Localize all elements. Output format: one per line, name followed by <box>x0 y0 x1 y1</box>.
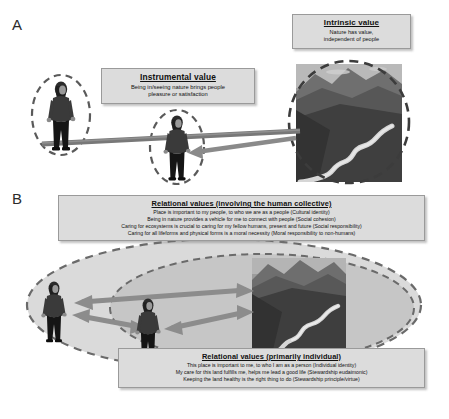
relational-collective-line-4: Caring for all lifeforms and physical fo… <box>64 230 419 237</box>
intrinsic-value-title: Intrinsic value <box>298 18 405 28</box>
panel-a-letter: A <box>12 16 23 33</box>
relational-collective-box: Relational values (involving the human c… <box>58 195 425 241</box>
relational-individual-title: Relational values (primarily individual) <box>124 352 419 361</box>
dashed-ellipse-nature-a <box>289 61 409 183</box>
intrinsic-value-line-1: Nature has value, <box>298 29 405 36</box>
relational-individual-box: Relational values (primarily individual)… <box>118 348 425 388</box>
arrow-nature-to-person-left-b <box>74 283 254 310</box>
arrow-nature-to-person-center-b <box>164 305 254 335</box>
person-figure-center-a <box>161 114 193 182</box>
relational-individual-line-3: Keeping the land healthy is the right th… <box>124 376 419 383</box>
arrow-nature-to-person-a <box>188 138 296 159</box>
nature-landscape-image-b <box>252 258 346 354</box>
instrumental-value-line-1: Being in/seeing nature brings people <box>107 84 249 92</box>
intrinsic-value-box: Intrinsic value Nature has value, indepe… <box>292 14 411 49</box>
person-figure-left-a <box>44 80 78 152</box>
relational-collective-line-1: Place is important to my people, to who … <box>64 209 419 216</box>
panel-b-letter: B <box>12 190 23 207</box>
nature-landscape-image-a <box>296 64 402 182</box>
person-figure-left-b <box>39 280 69 344</box>
relational-collective-title: Relational values (involving the human c… <box>64 199 419 208</box>
instrumental-value-title: Instrumental value <box>107 72 249 83</box>
relational-individual-line-1: This place is important to me, to who I … <box>124 362 419 369</box>
intrinsic-value-line-2: independent of people <box>298 36 405 43</box>
instrumental-value-box: Instrumental value Being in/seeing natur… <box>101 68 255 104</box>
instrumental-value-line-2: pleasure or satisfaction <box>107 91 249 99</box>
relational-collective-line-3: Caring for ecosystems is crucial to cari… <box>64 223 419 230</box>
relational-collective-line-2: Being in nature provides a vehicle for m… <box>64 216 419 223</box>
figure-root: A B <box>0 0 449 419</box>
relational-individual-line-2: My care for this land fulfills me, helps… <box>124 369 419 376</box>
